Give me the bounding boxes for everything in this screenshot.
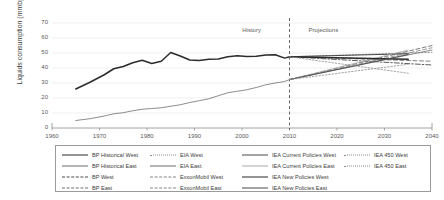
series-bp-historical-east <box>76 80 290 121</box>
legend-label: BP Historical West <box>92 150 138 160</box>
legend-item[interactable]: BP East <box>62 182 138 193</box>
legend-label: ExxonMobil West <box>180 172 223 182</box>
legend-swatch-icon <box>344 150 370 160</box>
legend-swatch-icon <box>242 172 268 182</box>
legend-label: IEA 450 West <box>374 150 408 160</box>
legend-item[interactable]: EIA East <box>150 160 223 171</box>
legend-label: IEA New Policies West <box>272 172 328 182</box>
legend-swatch-icon <box>150 172 176 182</box>
legend-item[interactable]: EIA West <box>150 149 223 160</box>
legend-item[interactable]: IEA New Policies East <box>242 182 336 193</box>
legend-item[interactable]: ExxonMobil West <box>150 171 223 182</box>
legend-label: EIA East <box>180 161 201 171</box>
legend-column-2: EIA WestEIA EastExxonMobil WestExxonMobi… <box>150 149 223 193</box>
legend-item[interactable]: IEA 450 West <box>344 149 408 160</box>
projections-annotation: Projections <box>309 27 339 33</box>
legend-swatch-icon <box>62 172 88 182</box>
legend-item[interactable]: ExxonMobil East <box>150 182 223 193</box>
series-bp-historical-west <box>76 53 290 89</box>
legend-item[interactable]: BP West <box>62 171 138 182</box>
legend-swatch-icon <box>242 150 268 160</box>
legend-swatch-icon <box>62 183 88 193</box>
chart-legend: BP Historical WestBP Historical EastBP W… <box>55 145 431 192</box>
legend-label: BP West <box>92 172 114 182</box>
legend-label: ExxonMobil East <box>180 183 222 193</box>
legend-label: IEA 450 East <box>374 161 406 171</box>
legend-item[interactable]: IEA 450 East <box>344 160 408 171</box>
legend-item[interactable]: IEA Current Policies West <box>242 149 336 160</box>
legend-label: IEA New Policies East <box>272 183 327 193</box>
legend-swatch-icon <box>242 161 268 171</box>
legend-label: IEA Current Policies East <box>272 161 335 171</box>
legend-swatch-icon <box>150 161 176 171</box>
legend-label: EIA West <box>180 150 203 160</box>
legend-swatch-icon <box>150 150 176 160</box>
legend-column-4: IEA 450 WestIEA 450 East <box>344 149 408 171</box>
legend-label: BP Historical East <box>92 161 137 171</box>
legend-swatch-icon <box>150 183 176 193</box>
legend-item[interactable]: BP Historical East <box>62 160 138 171</box>
legend-label: BP East <box>92 183 112 193</box>
legend-label: IEA Current Policies West <box>272 150 336 160</box>
legend-item[interactable]: BP Historical West <box>62 149 138 160</box>
legend-swatch-icon <box>344 161 370 171</box>
legend-swatch-icon <box>242 183 268 193</box>
legend-item[interactable]: IEA Current Policies East <box>242 160 336 171</box>
legend-swatch-icon <box>62 150 88 160</box>
legend-swatch-icon <box>62 161 88 171</box>
legend-item[interactable]: IEA New Policies West <box>242 171 336 182</box>
legend-column-3: IEA Current Policies WestIEA Current Pol… <box>242 149 336 193</box>
history-annotation: History <box>242 27 261 33</box>
legend-column-1: BP Historical WestBP Historical EastBP W… <box>62 149 138 193</box>
liquids-consumption-chart: Liquids consumption (mmbpd) 010203040506… <box>0 0 444 200</box>
